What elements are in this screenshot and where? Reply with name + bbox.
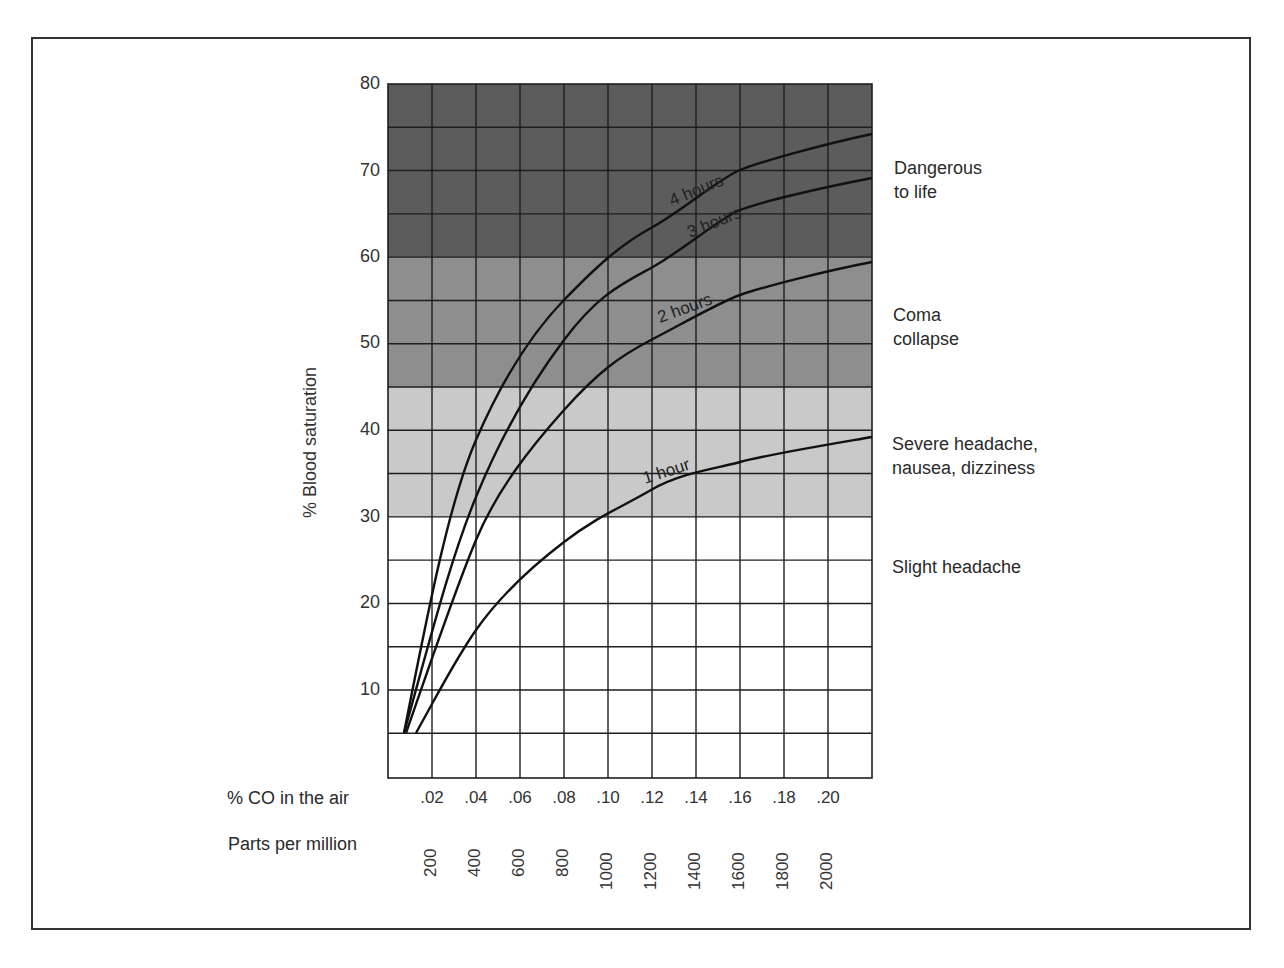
- x-tick-label-pct: .16: [718, 788, 762, 808]
- x-tick-label-pct: .12: [630, 788, 674, 808]
- x-tick-label-ppm: 1200: [641, 852, 661, 890]
- band-severe: [388, 387, 872, 517]
- y-tick-label: 40: [340, 419, 380, 440]
- chart-plot: 4 hours 3 hours 2 hours 1 hour: [0, 0, 1284, 968]
- x-axis-title-pct: % CO in the air: [227, 786, 349, 810]
- zone-label-severe: Severe headache, nausea, dizziness: [892, 432, 1038, 480]
- zone-label-dangerous: Dangerous to life: [894, 156, 982, 204]
- x-tick-label-pct: .02: [410, 788, 454, 808]
- x-tick-label-ppm: 400: [465, 849, 485, 877]
- x-tick-label-pct: .04: [454, 788, 498, 808]
- x-tick-label-pct: .08: [542, 788, 586, 808]
- x-tick-label-ppm: 1000: [597, 852, 617, 890]
- x-tick-label-ppm: 800: [553, 849, 573, 877]
- y-tick-label: 80: [340, 73, 380, 94]
- x-tick-label-pct: .14: [674, 788, 718, 808]
- zone-label-line: Severe headache,: [892, 432, 1038, 456]
- x-tick-label-ppm: 1600: [729, 852, 749, 890]
- zone-label-line: Coma: [893, 303, 959, 327]
- band-slight: [388, 517, 872, 778]
- x-axis-title-ppm: Parts per million: [228, 832, 357, 856]
- x-tick-label-ppm: 200: [421, 849, 441, 877]
- x-tick-label-ppm: 600: [509, 849, 529, 877]
- x-tick-label-pct: .06: [498, 788, 542, 808]
- zone-label-line: to life: [894, 180, 982, 204]
- zone-label-coma: Coma collapse: [893, 303, 959, 351]
- zone-label-line: collapse: [893, 327, 959, 351]
- y-axis-title: % Blood saturation: [300, 367, 321, 518]
- x-tick-label-pct: .20: [806, 788, 850, 808]
- y-tick-label: 20: [340, 592, 380, 613]
- y-tick-label: 10: [340, 679, 380, 700]
- band-coma: [388, 257, 872, 387]
- x-tick-label-pct: .10: [586, 788, 630, 808]
- zone-label-line: Dangerous: [894, 156, 982, 180]
- x-tick-label-ppm: 2000: [817, 852, 837, 890]
- x-tick-label-ppm: 1400: [685, 852, 705, 890]
- y-tick-label: 70: [340, 160, 380, 181]
- x-tick-label-ppm: 1800: [773, 852, 793, 890]
- zone-label-line: nausea, dizziness: [892, 456, 1038, 480]
- zone-label-slight: Slight headache: [892, 555, 1021, 579]
- y-tick-label: 30: [340, 506, 380, 527]
- y-tick-label: 50: [340, 332, 380, 353]
- x-tick-label-pct: .18: [762, 788, 806, 808]
- y-tick-label: 60: [340, 246, 380, 267]
